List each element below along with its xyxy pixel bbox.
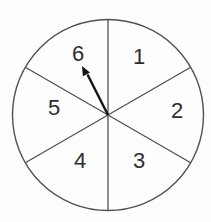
sector-label-5: 5 — [48, 95, 60, 120]
sector-label-3: 3 — [133, 148, 145, 173]
sector-label-6: 6 — [72, 41, 84, 66]
spinner-wheel: 123456 — [0, 0, 211, 222]
spinner-figure: 123456 — [0, 0, 211, 222]
sector-label-1: 1 — [133, 44, 145, 69]
sector-label-4: 4 — [74, 148, 86, 173]
sector-label-2: 2 — [171, 98, 183, 123]
